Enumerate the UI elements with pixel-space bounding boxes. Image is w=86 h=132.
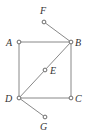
nodes-group: [17, 20, 73, 119]
node-f: [42, 20, 46, 24]
node-label-c: C: [75, 93, 82, 104]
node-d: [17, 96, 21, 100]
node-e: [43, 68, 47, 72]
node-label-b: B: [75, 37, 81, 48]
node-label-a: A: [5, 37, 13, 48]
node-label-e: E: [49, 65, 56, 76]
node-b: [69, 40, 73, 44]
edge-d-g: [21, 99, 44, 116]
node-a: [17, 40, 21, 44]
edge-f-b: [46, 23, 70, 41]
node-g: [43, 115, 47, 119]
node-c: [69, 96, 73, 100]
edge-d-e: [20, 71, 43, 96]
node-label-g: G: [40, 121, 47, 132]
node-label-d: D: [4, 93, 13, 104]
graph-diagram: FABEDCG: [0, 0, 86, 132]
node-label-f: F: [39, 5, 47, 16]
